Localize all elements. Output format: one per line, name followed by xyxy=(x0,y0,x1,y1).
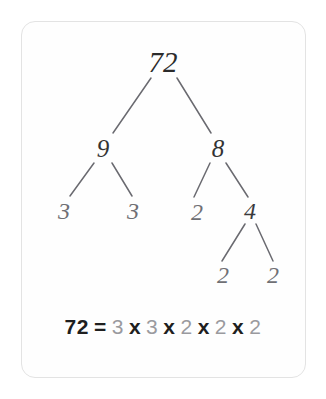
equation-result: 72 xyxy=(65,315,89,338)
tree-node-leaf-2-under-4-left: 2 xyxy=(217,263,229,287)
tree-node-4: 4 xyxy=(244,199,256,223)
equation-factor-1: 3 xyxy=(112,315,124,338)
tree-node-9: 9 xyxy=(97,136,110,161)
equation-operator-3: x xyxy=(198,315,210,338)
equation-operator-1: x xyxy=(129,315,141,338)
tree-node-leaf-3-right: 3 xyxy=(127,199,139,223)
equation-factor-4: 2 xyxy=(215,315,227,338)
tree-node-root-72: 72 xyxy=(149,48,178,77)
tree-node-leaf-2-under-4-right: 2 xyxy=(267,263,279,287)
equation-factor-2: 3 xyxy=(146,315,158,338)
equation-equals: = xyxy=(94,315,107,338)
factorization-equation: 72=3x3x2x2x2 xyxy=(0,316,326,337)
tree-node-leaf-2-under-8: 2 xyxy=(191,200,203,224)
equation-factor-3: 2 xyxy=(180,315,192,338)
equation-operator-4: x xyxy=(232,315,244,338)
tree-node-8: 8 xyxy=(212,136,225,161)
equation-operator-2: x xyxy=(163,315,175,338)
equation-factor-5: 2 xyxy=(249,315,261,338)
tree-node-leaf-3-left: 3 xyxy=(58,199,70,223)
